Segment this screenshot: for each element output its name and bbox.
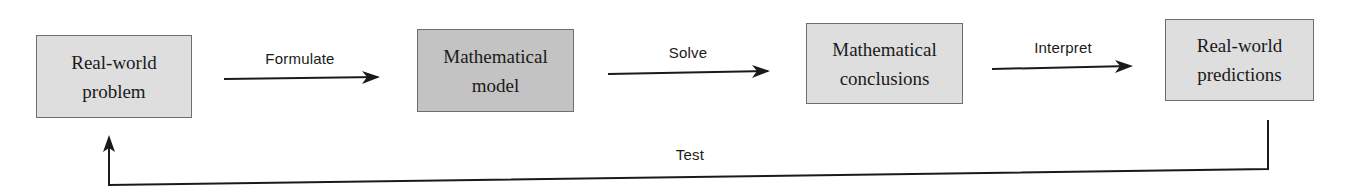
arrow-formulate <box>224 71 380 84</box>
arrow-solve <box>608 65 770 78</box>
arrow-test-feedback <box>103 120 1268 185</box>
arrows-layer <box>0 0 1372 190</box>
arrow-interpret <box>992 60 1133 73</box>
